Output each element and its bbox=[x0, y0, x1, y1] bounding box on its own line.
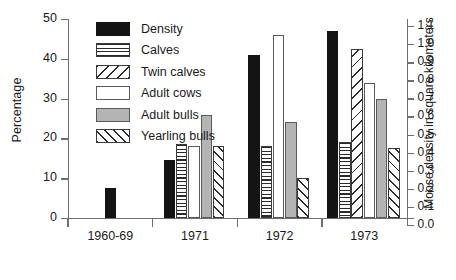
legend-swatch-solid-black-icon bbox=[96, 22, 130, 36]
legend-swatch-diagonal-forward-icon bbox=[96, 129, 130, 143]
y-axis-right-tick-label: 0.1 bbox=[418, 200, 435, 212]
x-axis-line bbox=[62, 218, 414, 219]
bar-calves-1972 bbox=[261, 146, 273, 218]
y-axis-right-tick-mark bbox=[407, 44, 414, 45]
legend-item-adult-cows: Adult cows bbox=[96, 83, 215, 105]
legend-item-label: Twin calves bbox=[141, 65, 206, 79]
legend-item-label: Adult cows bbox=[141, 86, 201, 100]
bar-adult-cows-1971 bbox=[188, 146, 200, 218]
bar-calves-1973 bbox=[339, 142, 351, 218]
legend: DensityCalvesTwin calvesAdult cowsAdult … bbox=[96, 18, 215, 147]
y-axis-right-tick-label: 0.7 bbox=[418, 91, 435, 103]
x-axis-group-separator bbox=[152, 218, 153, 227]
bar-density-1960-69 bbox=[105, 188, 117, 218]
legend-item-density: Density bbox=[96, 18, 215, 40]
legend-item-twin-calves: Twin calves bbox=[96, 61, 215, 83]
bar-adult-cows-1972 bbox=[273, 35, 285, 218]
y-axis-left-tick-mark bbox=[61, 138, 68, 139]
x-axis-group-separator bbox=[321, 218, 322, 227]
y-axis-left-tick-label: 20 bbox=[43, 131, 57, 144]
legend-swatch-diagonal-backslash-icon bbox=[96, 65, 130, 79]
y-axis-left-tick-mark bbox=[61, 59, 68, 60]
bar-density-1971 bbox=[164, 160, 176, 218]
legend-item-adult-bulls: Adult bulls bbox=[96, 104, 215, 126]
y-axis-left-title-text: Percentage bbox=[10, 77, 24, 142]
bar-adult-bulls-1973 bbox=[376, 99, 388, 218]
y-axis-right-tick-mark bbox=[407, 207, 414, 208]
legend-swatch-gray-fill-icon bbox=[96, 108, 130, 122]
legend-item-label: Yearling bulls bbox=[141, 129, 215, 143]
y-axis-left-line bbox=[68, 19, 69, 219]
bar-adult-cows-1973 bbox=[364, 83, 376, 218]
y-axis-right-tick-label: 1.0 bbox=[418, 37, 435, 49]
legend-item-calves: Calves bbox=[96, 40, 215, 62]
x-axis-group-separator bbox=[67, 218, 68, 227]
legend-item-label: Calves bbox=[141, 43, 179, 57]
y-axis-right-tick-mark bbox=[407, 153, 414, 154]
y-axis-right-tick-label: 0.5 bbox=[418, 128, 435, 140]
y-axis-right-tick-mark bbox=[407, 80, 414, 81]
bar-yearling-bulls-1972 bbox=[297, 178, 309, 218]
y-axis-right-tick-mark bbox=[407, 26, 414, 27]
y-axis-right-tick-mark bbox=[407, 62, 414, 63]
x-axis-category-label: 1972 bbox=[266, 229, 294, 243]
y-axis-right-tick-label: 0.6 bbox=[418, 109, 435, 121]
y-axis-left-title: Percentage bbox=[4, 0, 30, 219]
bar-twin-calves-1973 bbox=[351, 49, 363, 218]
x-axis-group-separator bbox=[237, 218, 238, 227]
y-axis-right-tick-mark bbox=[407, 98, 414, 99]
legend-item-label: Density bbox=[141, 22, 183, 36]
legend-item-label: Adult bulls bbox=[141, 108, 199, 122]
bar-density-1973 bbox=[327, 31, 339, 218]
y-axis-right-tick-label: 0.2 bbox=[418, 182, 435, 194]
bar-yearling-bulls-1973 bbox=[388, 148, 400, 218]
bar-calves-1971 bbox=[176, 144, 188, 218]
y-axis-left-tick-label: 10 bbox=[43, 171, 57, 184]
y-axis-left-tick-mark bbox=[61, 19, 68, 20]
y-axis-right-tick-mark bbox=[407, 116, 414, 117]
y-axis-left-tick-label: 50 bbox=[43, 12, 57, 25]
y-axis-left-tick-label: 40 bbox=[43, 52, 57, 65]
x-axis-category-label: 1973 bbox=[350, 229, 378, 243]
legend-swatch-horizontal-lines-icon bbox=[96, 43, 130, 57]
y-axis-left-tick-mark bbox=[61, 178, 68, 179]
y-axis-left-tick-label: 30 bbox=[43, 92, 57, 105]
y-axis-right-tick-mark bbox=[407, 225, 414, 226]
bar-adult-bulls-1972 bbox=[285, 122, 297, 218]
y-axis-right-tick-mark bbox=[407, 171, 414, 172]
bar-density-1972 bbox=[248, 55, 260, 218]
bar-yearling-bulls-1971 bbox=[213, 146, 225, 218]
y-axis-right-tick-label: 0.8 bbox=[418, 73, 435, 85]
y-axis-right-tick-label: 0.3 bbox=[418, 164, 435, 176]
legend-item-yearling-bulls: Yearling bulls bbox=[96, 126, 215, 148]
y-axis-right-tick-label: 1.1 bbox=[418, 19, 435, 31]
y-axis-right-tick-mark bbox=[407, 189, 414, 190]
y-axis-right-tick-label: 0.0 bbox=[418, 218, 435, 230]
y-axis-right-line bbox=[407, 19, 408, 226]
y-axis-right-tick-mark bbox=[407, 135, 414, 136]
y-axis-left-tick-label: 0 bbox=[50, 211, 57, 224]
x-axis-category-label: 1960-69 bbox=[87, 229, 133, 243]
y-axis-right-tick-label: 0.9 bbox=[418, 55, 435, 67]
legend-swatch-white-empty-icon bbox=[96, 86, 130, 100]
y-axis-right-tick-label: 0.4 bbox=[418, 146, 435, 158]
moose-population-bar-chart: Percentage Moose density in square kilom… bbox=[0, 0, 456, 280]
x-axis-category-label: 1971 bbox=[181, 229, 209, 243]
y-axis-left-tick-mark bbox=[61, 99, 68, 100]
